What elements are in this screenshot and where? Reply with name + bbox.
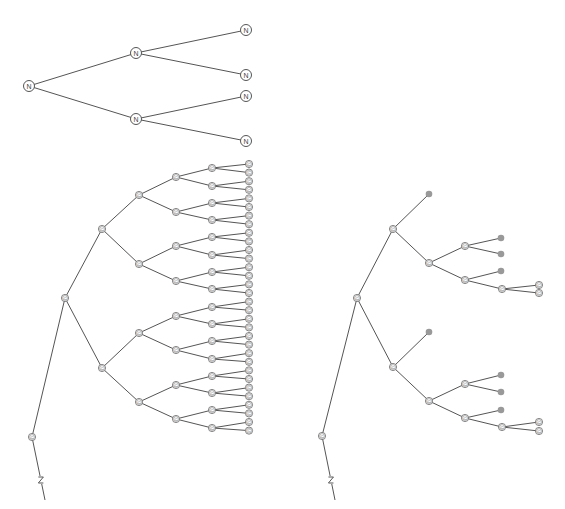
tree-node: C [318, 432, 325, 439]
tree-node: C [245, 169, 252, 176]
tree-node: C [208, 285, 215, 292]
node-label: C [392, 227, 395, 232]
tree-edge [176, 177, 212, 186]
tree-node: C [245, 281, 252, 288]
node-label: N [26, 83, 31, 90]
node-label: C [248, 299, 251, 304]
tree-node: C [498, 285, 505, 292]
tree-edge [465, 418, 502, 427]
node-label: N [243, 27, 248, 34]
tree-node: C [245, 229, 252, 236]
tree-edge [176, 316, 212, 324]
node-label: C [211, 270, 214, 275]
tree-node: C [208, 303, 215, 310]
tree-edge [102, 229, 139, 264]
tree-node: C [208, 233, 215, 240]
left-tree-full-binary: CCCCCCCCCCCCCCCCCCCCCCCCCCCCCCCCCCCCCCCC… [28, 160, 252, 500]
tree-node: C [389, 225, 396, 232]
node-label: C [248, 274, 251, 279]
tree-node: C [28, 433, 35, 440]
tree-node: C [461, 414, 468, 421]
tree-edge [212, 255, 249, 259]
tree-node: C [245, 195, 252, 202]
tree-node: C [245, 255, 252, 262]
node-label: C [211, 305, 214, 310]
tree-edge [29, 53, 136, 86]
tree-node: C [172, 346, 179, 353]
node-label: C [248, 282, 251, 287]
tree-edge [176, 385, 212, 393]
tree-edge [176, 168, 212, 177]
tree-edge [212, 284, 249, 289]
tree-node: C [245, 272, 252, 279]
node-label: C [501, 425, 504, 430]
node-label: C [538, 283, 541, 288]
tree-node: C [208, 182, 215, 189]
tail-edge [322, 436, 335, 500]
node-label: C [211, 357, 214, 362]
tree-edge [139, 316, 176, 333]
tree-edge [502, 427, 539, 431]
tree-edge [136, 53, 246, 75]
node-label: C [464, 416, 467, 421]
tree-edge [139, 177, 176, 195]
node-label: C [248, 411, 251, 416]
tree-edge [176, 350, 212, 359]
tree-edge [212, 388, 249, 393]
tree-node: N [24, 81, 35, 92]
tree-edge [176, 246, 212, 255]
node-label: C [392, 365, 395, 370]
pruned-node [498, 389, 505, 396]
tree-node: C [245, 298, 252, 305]
tree-edge [212, 341, 249, 345]
node-label: C [248, 170, 251, 175]
tree-node: C [245, 307, 252, 314]
tree-node: C [135, 191, 142, 198]
node-label: C [31, 435, 34, 440]
tree-edge [212, 250, 249, 255]
node-label: C [501, 287, 504, 292]
pruned-node [426, 329, 433, 336]
node-label: C [211, 184, 214, 189]
tree-node: C [245, 418, 252, 425]
node-label: C [64, 296, 67, 301]
tree-node: N [241, 91, 252, 102]
tree-node: C [245, 212, 252, 219]
tree-node: C [535, 281, 542, 288]
tree-edge [176, 212, 212, 220]
tree-node: C [135, 329, 142, 336]
tree-edge [357, 298, 393, 367]
tree-edge [176, 307, 212, 316]
tree-node: C [172, 312, 179, 319]
tree-edge [502, 422, 539, 427]
node-label: C [138, 193, 141, 198]
node-label: C [538, 429, 541, 434]
tree-edge [212, 233, 249, 237]
tree-edge [139, 333, 176, 350]
node-label: C [138, 400, 141, 405]
tail-edge [32, 437, 45, 500]
tree-edge [393, 367, 429, 401]
node-label: C [175, 244, 178, 249]
tree-node: N [241, 25, 252, 36]
tree-edge [176, 341, 212, 350]
tree-edge [102, 195, 139, 229]
node-label: C [138, 331, 141, 336]
node-label: C [248, 351, 251, 356]
tree-edge [65, 229, 102, 298]
node-label: C [248, 385, 251, 390]
tree-node: N [131, 114, 142, 125]
pruned-node [498, 407, 505, 414]
tree-node: C [208, 337, 215, 344]
tree-node: C [135, 398, 142, 405]
tree-node: C [208, 424, 215, 431]
tree-edge [212, 393, 249, 396]
tree-edge [176, 203, 212, 212]
tree-edge [176, 237, 212, 246]
node-label: C [248, 205, 251, 210]
tree-node: C [208, 372, 215, 379]
tree-edge [102, 368, 139, 402]
tree-node: C [245, 384, 252, 391]
tree-edge [465, 271, 501, 280]
tree-node: C [208, 355, 215, 362]
